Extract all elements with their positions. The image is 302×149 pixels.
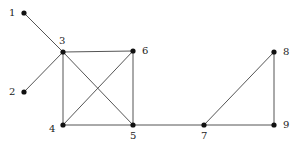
node-label-7: 7	[201, 130, 207, 141]
node-label-8: 8	[283, 46, 289, 57]
node-5	[130, 122, 135, 127]
node-label-6: 6	[142, 45, 148, 56]
node-1	[21, 10, 26, 15]
node-label-1: 1	[9, 7, 15, 18]
edge-1-3	[24, 13, 63, 52]
edges-group	[24, 13, 274, 125]
graph-diagram: 123456789	[0, 0, 302, 149]
node-2	[21, 89, 26, 94]
node-label-2: 2	[9, 86, 15, 97]
node-3	[60, 49, 65, 54]
node-label-3: 3	[59, 35, 65, 46]
node-9	[271, 122, 276, 127]
labels-group: 123456789	[9, 7, 289, 141]
node-label-4: 4	[49, 123, 55, 134]
edge-7-8	[204, 52, 274, 125]
node-8	[271, 49, 276, 54]
nodes-group	[21, 10, 276, 127]
node-label-9: 9	[283, 119, 289, 130]
node-7	[201, 122, 206, 127]
node-label-5: 5	[130, 130, 136, 141]
node-6	[130, 48, 135, 53]
edge-2-3	[24, 52, 63, 92]
node-4	[60, 122, 65, 127]
edge-3-6	[63, 51, 133, 52]
